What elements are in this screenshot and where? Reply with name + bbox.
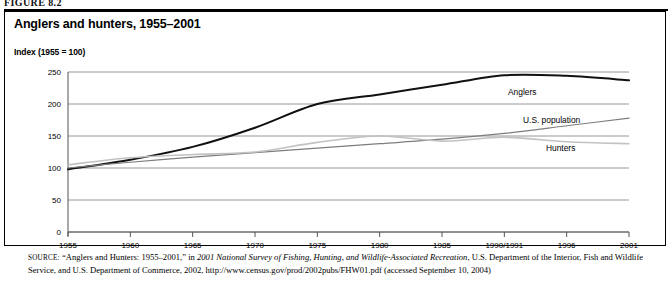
y-axis-tick-label: 150 bbox=[48, 132, 62, 141]
x-axis-tick-label: 1970 bbox=[246, 241, 264, 250]
x-axis-tick-label: 1985 bbox=[433, 241, 451, 250]
x-axis-tick-label: 1980 bbox=[371, 241, 389, 250]
source-label: SOURCE: bbox=[28, 254, 60, 262]
y-axis-tick-label: 100 bbox=[48, 164, 62, 173]
series-label-anglers: Anglers bbox=[508, 87, 536, 97]
y-axis-tick-label: 200 bbox=[48, 100, 62, 109]
series-label-us-population: U.S. population bbox=[523, 115, 581, 125]
x-axis-tick-label: 1960 bbox=[121, 241, 139, 250]
source-pre: “Anglers and Hunters: 1955–2001,” in bbox=[60, 252, 197, 262]
x-axis-tick-label: 1990/1991 bbox=[485, 241, 523, 250]
series-line-u-s-population bbox=[68, 118, 629, 168]
x-axis-tick-label: 2001 bbox=[620, 241, 638, 250]
y-axis-tick-label: 0 bbox=[57, 228, 62, 237]
x-axis-tick-label: 1975 bbox=[308, 241, 326, 250]
x-axis-tick-label: 1996 bbox=[558, 241, 576, 250]
y-axis-tick-label: 250 bbox=[48, 68, 62, 77]
source-note: SOURCE: “Anglers and Hunters: 1955–2001,… bbox=[28, 251, 668, 276]
series-label-hunters: Hunters bbox=[546, 143, 575, 153]
line-chart: 0501001502002501955196019651970197519801… bbox=[0, 0, 672, 291]
y-axis-tick-label: 50 bbox=[52, 196, 61, 205]
x-axis-tick-label: 1965 bbox=[184, 241, 202, 250]
x-axis-tick-label: 1955 bbox=[59, 241, 77, 250]
source-title-italic: 2001 National Survey of Fishing, Hunting… bbox=[197, 252, 467, 262]
figure-container: FIGURE 8.2 Anglers and hunters, 1955–200… bbox=[0, 0, 672, 291]
